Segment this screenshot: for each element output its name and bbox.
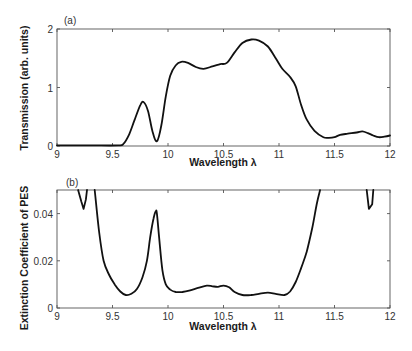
- x-tick-label: 11: [274, 149, 285, 160]
- panel-a-label: (a): [64, 15, 76, 26]
- x-tick-label: 9.5: [106, 311, 120, 322]
- x-tick-label: 12: [384, 149, 396, 160]
- panel-a-frame: [57, 29, 390, 146]
- x-tick-label: 12: [384, 311, 396, 322]
- panel-a-transmission-curve: [57, 39, 390, 145]
- panel-b-label: (b): [66, 177, 78, 188]
- panel-b-extinction-curves: [78, 190, 373, 295]
- figure: (a) 99.51010.51111.512 012 Wavelength λ …: [0, 0, 412, 351]
- panel-a-ylabel: Transmission (arb. units): [18, 26, 30, 151]
- panel-b-extinction-curve: [367, 190, 374, 209]
- panel-a-xlabel: Wavelength λ: [189, 156, 256, 168]
- x-tick-label: 9: [54, 149, 60, 160]
- panel-b-frame: [57, 190, 390, 308]
- panel-b-ylabel: Extinction Coefficient of PES: [18, 186, 30, 331]
- y-tick-label: 0.04: [34, 209, 54, 220]
- panel-b-extinction-curve: [95, 190, 320, 295]
- panel-b: (b) 99.51010.51111.512 00.020.04 Wavelen…: [18, 177, 396, 332]
- x-tick-label: 11: [274, 311, 285, 322]
- panel-a-xticks: 99.51010.51111.512: [54, 29, 396, 160]
- y-tick-label: 0.02: [34, 256, 54, 267]
- x-tick-label: 11.5: [325, 149, 344, 160]
- y-tick-label: 0: [47, 141, 53, 152]
- x-tick-label: 11.5: [325, 311, 344, 322]
- x-tick-label: 10: [162, 311, 174, 322]
- panel-b-extinction-curve: [78, 190, 87, 209]
- x-tick-label: 9: [54, 311, 60, 322]
- panel-b-yticks: 00.020.04: [34, 209, 390, 314]
- x-tick-label: 9.5: [106, 149, 120, 160]
- panel-a-yticks: 012: [47, 24, 390, 152]
- y-tick-label: 0: [47, 303, 53, 314]
- y-tick-label: 1: [47, 83, 53, 94]
- x-tick-label: 10: [162, 149, 174, 160]
- y-tick-label: 2: [47, 24, 53, 35]
- panel-b-xlabel: Wavelength λ: [189, 320, 256, 332]
- panel-b-xticks: 99.51010.51111.512: [54, 190, 396, 322]
- panel-a: (a) 99.51010.51111.512 012 Wavelength λ …: [18, 15, 396, 168]
